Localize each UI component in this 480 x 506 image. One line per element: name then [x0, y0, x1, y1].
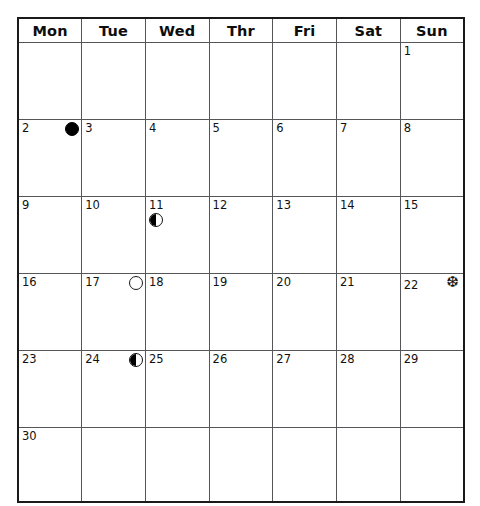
day-number: 4: [149, 122, 156, 135]
day-number: 7: [340, 122, 347, 135]
calendar-day-cell-10[interactable]: 10: [82, 197, 146, 274]
calendar-empty-cell: [209, 43, 273, 120]
day-cell-inner: [82, 428, 145, 501]
day-number: 3: [85, 122, 92, 135]
calendar-day-cell-12[interactable]: 12: [209, 197, 273, 274]
calendar-empty-cell: [337, 43, 401, 120]
calendar-header-row: Mon Tue Wed Thr Fri Sat Sun: [18, 18, 464, 43]
new-moon-icon: [65, 122, 79, 136]
calendar-day-cell-30[interactable]: 30: [18, 428, 82, 502]
calendar-day-cell-3[interactable]: 3: [82, 120, 146, 197]
calendar-day-cell-6[interactable]: 6: [273, 120, 337, 197]
calendar-empty-cell: [400, 428, 464, 502]
day-cell-inner: 28: [337, 351, 400, 427]
calendar-day-cell-14[interactable]: 14: [337, 197, 401, 274]
day-cell-inner: 16: [19, 274, 81, 350]
day-number: 8: [404, 122, 411, 135]
calendar-day-cell-8[interactable]: 8: [400, 120, 464, 197]
day-cell-inner: [82, 43, 145, 119]
calendar-day-cell-15[interactable]: 15: [400, 197, 464, 274]
calendar-day-cell-26[interactable]: 26: [209, 351, 273, 428]
day-number: 11: [149, 199, 164, 212]
day-number: 2: [22, 122, 29, 135]
calendar-day-cell-4[interactable]: 4: [145, 120, 209, 197]
weekday-header-mon: Mon: [18, 18, 82, 43]
snowflake-icon: ❆: [446, 274, 459, 291]
calendar-empty-cell: [145, 43, 209, 120]
calendar-day-cell-21[interactable]: 21: [337, 274, 401, 351]
day-number: 14: [340, 199, 355, 212]
day-number: 26: [213, 353, 228, 366]
weekday-header-wed: Wed: [145, 18, 209, 43]
calendar-empty-cell: [82, 428, 146, 502]
calendar-week-row: 16171819202122❆: [18, 274, 464, 351]
day-cell-inner: [401, 428, 463, 501]
day-number: 13: [276, 199, 291, 212]
calendar-day-cell-23[interactable]: 23: [18, 351, 82, 428]
calendar-week-row: 23242526272829: [18, 351, 464, 428]
day-cell-inner: 5: [210, 120, 273, 196]
day-cell-inner: 21: [337, 274, 400, 350]
day-cell-inner: [146, 428, 209, 501]
last-quarter-moon-icon: [129, 353, 143, 367]
day-number: 20: [276, 276, 291, 289]
day-cell-inner: 14: [337, 197, 400, 273]
calendar-day-cell-22[interactable]: 22❆: [400, 274, 464, 351]
calendar-week-row: 2345678: [18, 120, 464, 197]
calendar-empty-cell: [145, 428, 209, 502]
calendar-empty-cell: [82, 43, 146, 120]
calendar-day-cell-20[interactable]: 20: [273, 274, 337, 351]
calendar-day-cell-25[interactable]: 25: [145, 351, 209, 428]
day-number: 28: [340, 353, 355, 366]
weekday-header-tue: Tue: [82, 18, 146, 43]
calendar-day-cell-2[interactable]: 2: [18, 120, 82, 197]
calendar-day-cell-27[interactable]: 27: [273, 351, 337, 428]
day-cell-inner: 25: [146, 351, 209, 427]
day-cell-inner: 15: [401, 197, 463, 273]
calendar-week-row: 30: [18, 428, 464, 502]
calendar-day-cell-24[interactable]: 24: [82, 351, 146, 428]
day-cell-inner: 24: [82, 351, 145, 427]
day-number: 12: [213, 199, 228, 212]
calendar-day-cell-9[interactable]: 9: [18, 197, 82, 274]
day-number: 5: [213, 122, 220, 135]
day-cell-inner: [273, 43, 336, 119]
day-cell-inner: 22❆: [401, 274, 463, 350]
day-cell-inner: [273, 428, 336, 501]
calendar-empty-cell: [209, 428, 273, 502]
calendar-day-cell-13[interactable]: 13: [273, 197, 337, 274]
calendar-day-cell-29[interactable]: 29: [400, 351, 464, 428]
calendar-day-cell-16[interactable]: 16: [18, 274, 82, 351]
day-cell-inner: [337, 428, 400, 501]
day-number: 21: [340, 276, 355, 289]
day-cell-inner: 2: [19, 120, 81, 196]
day-cell-inner: 13: [273, 197, 336, 273]
day-cell-inner: 26: [210, 351, 273, 427]
day-cell-inner: 23: [19, 351, 81, 427]
day-number: 6: [276, 122, 283, 135]
day-number: 27: [276, 353, 291, 366]
day-number: 1: [404, 45, 411, 58]
day-cell-inner: 4: [146, 120, 209, 196]
weekday-header-sat: Sat: [337, 18, 401, 43]
weekday-header-sun: Sun: [400, 18, 464, 43]
calendar-day-cell-17[interactable]: 17: [82, 274, 146, 351]
day-cell-inner: 9: [19, 197, 81, 273]
first-quarter-moon-icon: [149, 213, 163, 227]
calendar-container: Mon Tue Wed Thr Fri Sat Sun 123456789101…: [17, 17, 463, 497]
calendar-day-cell-18[interactable]: 18: [145, 274, 209, 351]
calendar-day-cell-28[interactable]: 28: [337, 351, 401, 428]
calendar-empty-cell: [273, 43, 337, 120]
calendar-body: 12345678910111213141516171819202122❆2324…: [18, 43, 464, 502]
calendar-day-cell-5[interactable]: 5: [209, 120, 273, 197]
day-cell-inner: 18: [146, 274, 209, 350]
calendar-day-cell-19[interactable]: 19: [209, 274, 273, 351]
day-cell-inner: 19: [210, 274, 273, 350]
calendar-day-cell-11[interactable]: 11: [145, 197, 209, 274]
calendar-day-cell-7[interactable]: 7: [337, 120, 401, 197]
day-cell-inner: 30: [19, 428, 81, 501]
calendar-day-cell-1[interactable]: 1: [400, 43, 464, 120]
calendar-empty-cell: [18, 43, 82, 120]
day-number: 29: [404, 353, 419, 366]
day-cell-inner: [337, 43, 400, 119]
